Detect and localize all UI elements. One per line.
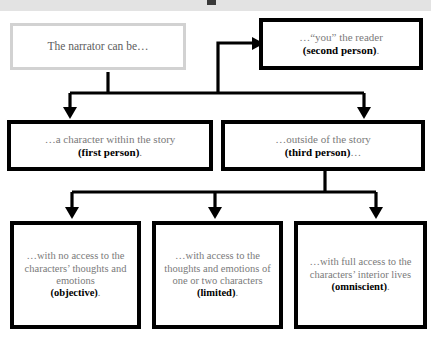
node-first-person[interactable]: …a character within the story(first pers… bbox=[7, 120, 213, 171]
node-first-person-trailing: . bbox=[139, 146, 142, 158]
node-second-person-term: (second person) bbox=[303, 44, 377, 56]
node-narrator-root[interactable]: The narrator can be… bbox=[10, 23, 186, 70]
header-title-remnant bbox=[207, 0, 216, 5]
node-second-person[interactable]: …“you” the reader(second person). bbox=[259, 18, 423, 70]
node-first-person-term: (first person) bbox=[78, 146, 139, 158]
connector-second-person-elbow bbox=[218, 43, 253, 93]
cropped-header-strip bbox=[0, 0, 431, 12]
node-objective-term: (objective) bbox=[51, 287, 98, 298]
node-limited-lead: …with access to the thoughts and emotion… bbox=[164, 250, 270, 286]
node-third-person-lead: …outside of the story bbox=[275, 133, 371, 145]
connector-third-person-arrowhead bbox=[357, 107, 371, 119]
node-objective-trailing: . bbox=[98, 287, 101, 298]
node-second-person-trailing: . bbox=[376, 44, 379, 56]
diagram-canvas: The narrator can be… …“you” the reader(s… bbox=[0, 0, 431, 339]
node-narrator-root-label: The narrator can be… bbox=[43, 40, 152, 54]
node-objective[interactable]: …with no access to the characters’ thoug… bbox=[10, 221, 141, 329]
node-limited-trailing: . bbox=[235, 287, 238, 298]
node-third-person-term: (third person) bbox=[285, 146, 351, 158]
node-third-person[interactable]: …outside of the story(third person)… bbox=[221, 120, 425, 171]
connector-limited-arrowhead bbox=[208, 207, 222, 219]
node-omniscient-lead: …with full access to the characters’ int… bbox=[309, 256, 411, 279]
node-omniscient-text: …with full access to the characters’ int… bbox=[298, 256, 423, 293]
node-third-person-trailing: … bbox=[350, 146, 361, 158]
node-limited-term: (limited) bbox=[197, 287, 236, 298]
node-third-person-text: …outside of the story(third person)… bbox=[271, 133, 375, 159]
node-omniscient[interactable]: …with full access to the characters’ int… bbox=[294, 221, 427, 329]
node-first-person-text: …a character within the story(first pers… bbox=[41, 133, 180, 159]
node-objective-lead: …with no access to the characters’ thoug… bbox=[25, 250, 127, 286]
node-second-person-text: …“you” the reader(second person). bbox=[295, 31, 387, 57]
connector-objective-arrowhead bbox=[65, 207, 79, 219]
node-objective-text: …with no access to the characters’ thoug… bbox=[14, 250, 137, 300]
connector-omniscient-arrowhead bbox=[369, 207, 383, 219]
node-omniscient-trailing: . bbox=[387, 281, 390, 292]
connector-first-person-arrowhead bbox=[63, 107, 77, 119]
node-limited[interactable]: …with access to the thoughts and emotion… bbox=[152, 221, 283, 329]
node-omniscient-term: (omniscient) bbox=[331, 281, 386, 292]
node-limited-text: …with access to the thoughts and emotion… bbox=[156, 250, 279, 300]
node-second-person-lead: …“you” the reader bbox=[299, 31, 383, 43]
node-first-person-lead: …a character within the story bbox=[45, 133, 176, 145]
